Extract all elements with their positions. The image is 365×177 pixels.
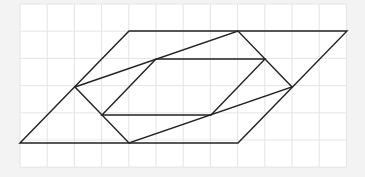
diagram-canvas	[0, 0, 365, 177]
geometry-figure	[0, 0, 365, 177]
